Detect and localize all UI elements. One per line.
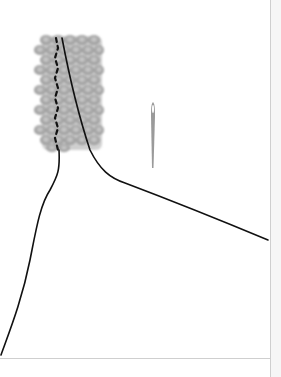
beadwork-illustration [0, 0, 270, 358]
illustration-panel [0, 0, 269, 358]
needle-icon [151, 102, 155, 168]
bead-strip [34, 35, 104, 152]
right-margin [270, 0, 281, 377]
bottom-divider [0, 358, 270, 359]
